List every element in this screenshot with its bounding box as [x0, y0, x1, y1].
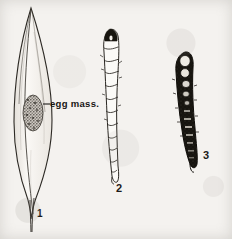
figure-plate: egg mass. 1 2 3 [0, 0, 232, 239]
egg-mass [23, 95, 43, 131]
larva2-head-marking [109, 36, 112, 41]
egg-mass-annotation-label: egg mass. [50, 99, 99, 109]
illustration-canvas [0, 0, 232, 239]
figure-3-number: 3 [203, 150, 209, 161]
larva2-body [104, 29, 119, 182]
figure-2-larva [100, 29, 122, 184]
figure-1-number: 1 [37, 209, 43, 219]
figure-1-leaf [14, 8, 52, 232]
figure-2-number: 2 [116, 183, 122, 194]
figure-3-larva [172, 52, 199, 172]
